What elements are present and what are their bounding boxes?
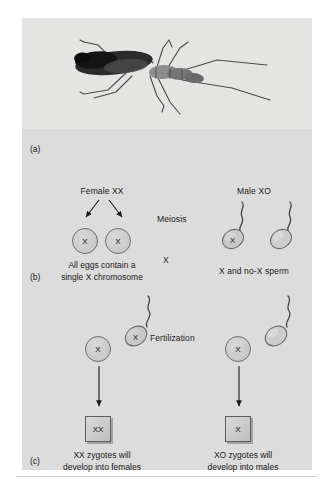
sperm-cell-with-x: X xyxy=(212,198,258,244)
fertilization-left-arrow xyxy=(93,366,105,412)
egg-caption-line1: All eggs contain a xyxy=(61,260,143,272)
fertilization-left-egg: X xyxy=(85,336,111,362)
egg-caption: All eggs contain a single X chromosome xyxy=(61,260,143,283)
zygote-xx-caption-line1: XX zygotes will xyxy=(63,450,141,462)
zygote-xo-caption: XO zygotes will develop into males xyxy=(208,450,279,473)
fertilization-left-sperm: X xyxy=(104,294,150,340)
egg-cell-left: X xyxy=(72,228,98,254)
fertilization-right-egg-label: X xyxy=(226,345,250,354)
zygote-xo-caption-line2: develop into males xyxy=(208,462,279,474)
fertilization-right-sperm xyxy=(244,294,290,340)
fertilization-left-sperm-label: X xyxy=(133,333,138,342)
egg-left-chromosome-label: X xyxy=(73,237,97,246)
panel-label-a: (a) xyxy=(30,144,40,154)
fertilization-right-arrow xyxy=(233,366,245,412)
fertilization-left-egg-label: X xyxy=(86,345,110,354)
zygote-xx-caption: XX zygotes will develop into females xyxy=(63,450,141,473)
zygote-box-xo: X xyxy=(225,416,251,442)
water-strider-illustration xyxy=(22,18,312,129)
fertilization-process-label: Fertilization xyxy=(150,333,195,343)
zygote-box-xx: XX xyxy=(85,416,111,442)
zygote-xx-caption-line2: develop into females xyxy=(63,462,141,474)
cross-symbol-meiosis: X xyxy=(163,255,169,265)
figure-panel: (a) Female XX X X All eggs contain a sin… xyxy=(22,18,312,470)
female-genotype-label: Female XX xyxy=(81,186,124,196)
fertilization-right-egg: X xyxy=(225,336,251,362)
zygote-xo-label: X xyxy=(226,425,250,434)
insect-photograph xyxy=(22,18,312,129)
sperm-no-x-shape xyxy=(260,198,320,252)
panel-label-c: (c) xyxy=(30,456,40,466)
sperm-cell-no-x xyxy=(260,198,306,244)
sperm-caption: X and no-X sperm xyxy=(219,266,289,276)
sperm-x-chromosome-label: X xyxy=(230,236,235,245)
meiosis-female-arrows xyxy=(76,198,132,224)
meiosis-process-label: Meiosis xyxy=(157,214,187,224)
zygote-xx-label: XX xyxy=(86,425,110,434)
egg-right-chromosome-label: X xyxy=(106,237,130,246)
zygote-xo-caption-line1: XO zygotes will xyxy=(208,450,279,462)
egg-cell-right: X xyxy=(105,228,131,254)
male-genotype-label: Male XO xyxy=(237,186,271,196)
egg-caption-line2: single X chromosome xyxy=(61,272,143,284)
panel-label-b: (b) xyxy=(30,272,40,282)
fertilization-sperm-no-x-shape xyxy=(244,294,306,350)
bottom-divider xyxy=(16,476,318,477)
